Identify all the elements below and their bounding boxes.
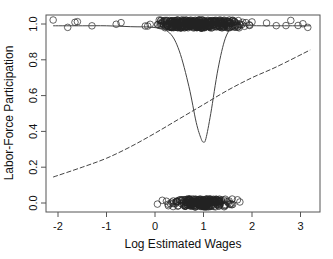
y-tick-label: 0.2 [27,160,39,175]
y-tick-label: 1.0 [27,16,39,31]
y-tick-label: 0.8 [27,52,39,67]
y-tick-label: 0.6 [27,88,39,103]
x-tick-label: 2 [249,220,255,232]
logistic-fit-line [53,50,310,177]
y-tick-label: 0.0 [27,195,39,210]
x-axis: -2-10123 [53,212,303,232]
chart: -2-10123 0.00.20.40.60.81.0 Log Estimate… [0,0,333,259]
x-tick-label: 3 [297,220,303,232]
x-tick-label: 1 [200,220,206,232]
y-tick-label: 0.4 [27,124,39,139]
x-tick-label: -2 [53,220,63,232]
x-tick-label: -1 [102,220,112,232]
y-axis: 0.00.20.40.60.81.0 [27,16,46,210]
x-tick-label: 0 [152,220,158,232]
y-axis-label: Labor-Force Participation [2,46,16,181]
nonparametric-fit-line [53,26,310,143]
scatter-points [50,17,311,211]
plot-frame [46,15,320,212]
x-axis-label: Log Estimated Wages [125,237,242,251]
